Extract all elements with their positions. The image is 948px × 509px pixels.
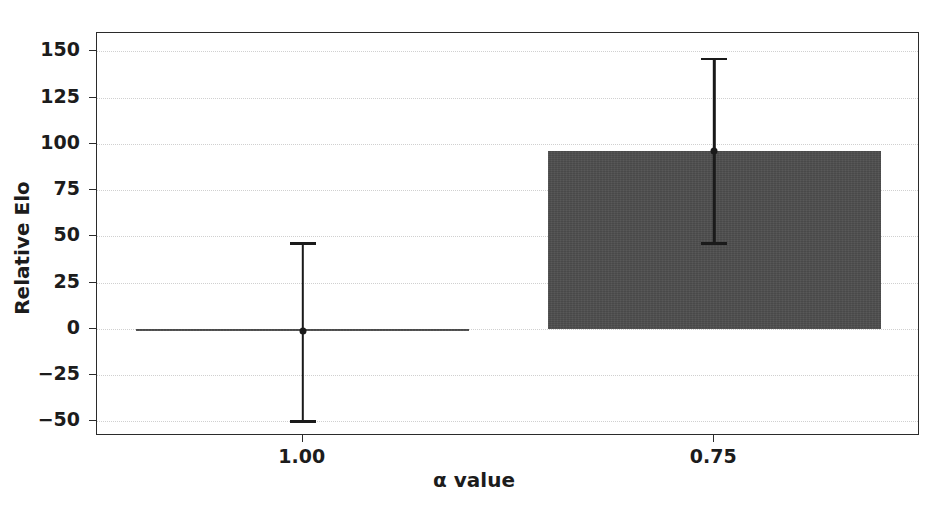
y-tick-label-8: 150 bbox=[0, 40, 80, 59]
y-tick-mark-3 bbox=[89, 282, 96, 283]
y-tick-label-1: −25 bbox=[0, 364, 80, 383]
gridline-y-7 bbox=[97, 98, 918, 99]
data-point-marker-0.75 bbox=[711, 148, 718, 155]
y-tick-label-4: 50 bbox=[0, 225, 80, 244]
error-bar-cap-high-0.75 bbox=[701, 58, 727, 61]
plot-area bbox=[96, 32, 919, 435]
y-tick-label-5: 75 bbox=[0, 179, 80, 198]
y-tick-label-6: 100 bbox=[0, 133, 80, 152]
x-tick-label-0: 1.00 bbox=[232, 447, 372, 466]
data-point-marker-1.00 bbox=[299, 327, 306, 334]
x-tick-mark-1 bbox=[713, 435, 714, 442]
error-bar-cap-low-1.00 bbox=[290, 420, 316, 423]
y-tick-mark-6 bbox=[89, 143, 96, 144]
x-axis-title: α value bbox=[0, 468, 948, 492]
y-tick-label-0: −50 bbox=[0, 410, 80, 429]
gridline-y-8 bbox=[97, 51, 918, 52]
y-tick-mark-1 bbox=[89, 374, 96, 375]
y-tick-mark-2 bbox=[89, 328, 96, 329]
x-tick-label-1: 0.75 bbox=[643, 447, 783, 466]
error-bar-cap-high-1.00 bbox=[290, 242, 316, 245]
y-tick-mark-5 bbox=[89, 189, 96, 190]
gridline-y-1 bbox=[97, 375, 918, 376]
gridline-y-6 bbox=[97, 144, 918, 145]
y-tick-label-7: 125 bbox=[0, 87, 80, 106]
y-tick-mark-0 bbox=[89, 420, 96, 421]
gridline-y-0 bbox=[97, 421, 918, 422]
y-tick-label-3: 25 bbox=[0, 272, 80, 291]
y-tick-mark-7 bbox=[89, 97, 96, 98]
y-tick-label-2: 0 bbox=[0, 318, 80, 337]
y-axis-title: Relative Elo bbox=[10, 181, 34, 315]
y-tick-mark-8 bbox=[89, 50, 96, 51]
y-tick-mark-4 bbox=[89, 235, 96, 236]
error-bar-cap-low-0.75 bbox=[701, 242, 727, 245]
chart-figure: Relative Elo −50−250255075100125150 1.00… bbox=[0, 0, 948, 509]
x-tick-mark-0 bbox=[302, 435, 303, 442]
